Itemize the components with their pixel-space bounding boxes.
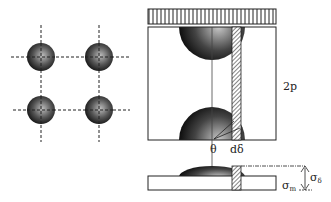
particle-4 [85,96,113,124]
unit-cell: 2p θ dδ [148,0,297,190]
sigma-m-label: σm [282,179,297,193]
period-label: 2p [283,80,297,93]
grid-lines [11,25,130,142]
matrix-plate [148,176,276,190]
particle-grid [11,25,130,142]
theta-label: θ [210,143,217,156]
particle-1 [27,43,55,71]
contact-profile: σm σδ [148,166,322,193]
sigma-delta-label: σδ [310,171,322,185]
d-delta-label: dδ [230,143,244,156]
top-plate [148,9,276,24]
bottom-strip [232,166,241,190]
particle-2 [85,43,113,71]
hatched-strip [232,27,241,140]
particle-3 [27,96,55,124]
particle-diagram: 2p θ dδ σm σδ [0,0,331,202]
